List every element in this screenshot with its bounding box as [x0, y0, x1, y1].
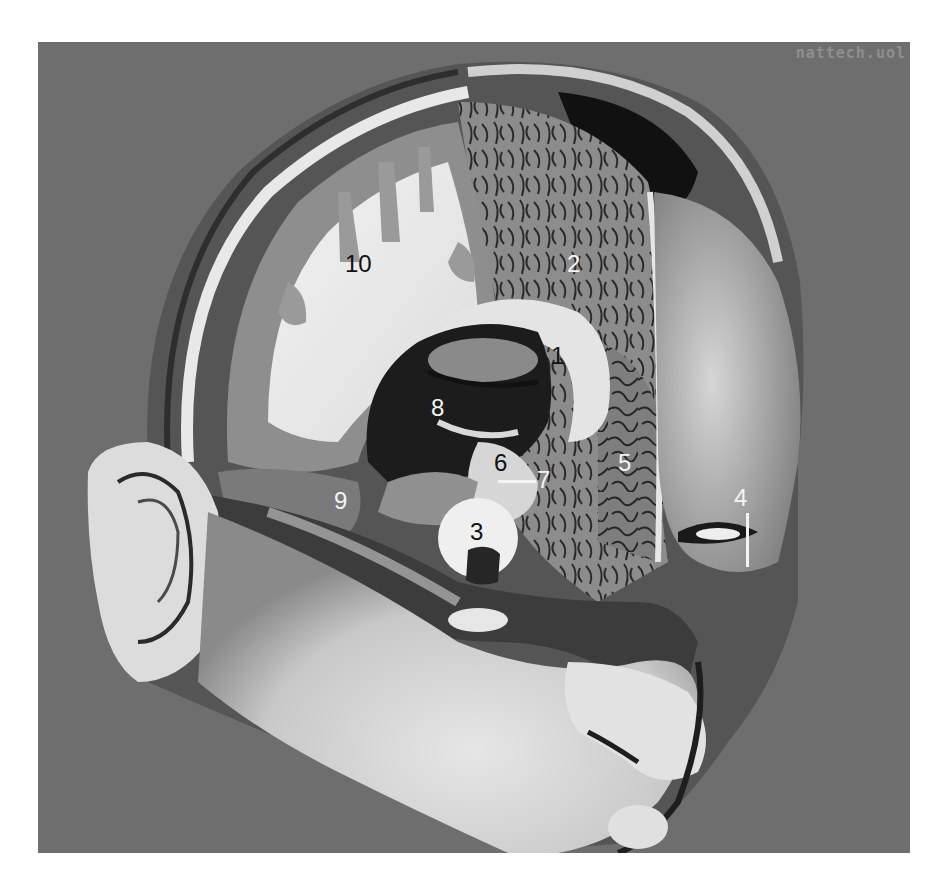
label-4: 4	[734, 486, 747, 510]
label-4-leader-line	[746, 513, 749, 567]
label-10: 10	[345, 252, 372, 276]
label-3: 3	[470, 520, 483, 544]
head-volume-render	[38, 42, 910, 853]
mri-head-rendering: nattech.uol	[38, 42, 910, 853]
label-9: 9	[334, 489, 347, 513]
label-5: 5	[618, 451, 631, 475]
label-7: 7	[537, 468, 550, 492]
label-6: 6	[494, 451, 507, 475]
watermark-text: nattech.uol	[796, 44, 906, 62]
label-2: 2	[567, 252, 580, 276]
label-8: 8	[431, 396, 444, 420]
label-1: 1	[551, 344, 564, 368]
label-7-leader-line	[498, 480, 536, 483]
